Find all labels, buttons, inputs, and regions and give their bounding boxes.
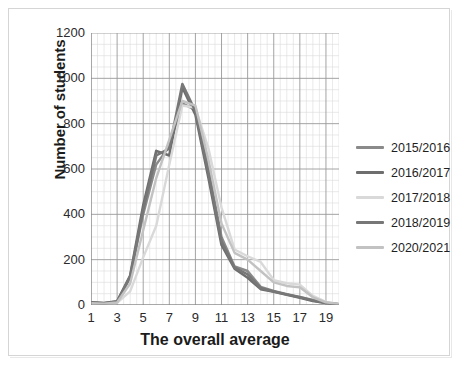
x-tick-13: 13 — [235, 311, 261, 324]
y-tick-800: 800 — [41, 117, 85, 130]
x-tick-19: 19 — [313, 311, 339, 324]
legend-label: 2015/2016 — [391, 141, 450, 155]
x-tick-1: 1 — [78, 311, 104, 324]
x-tick-11: 11 — [209, 311, 235, 324]
legend-item-2018-2019[interactable]: 2018/2019 — [356, 210, 456, 235]
plot-area — [91, 33, 339, 305]
chart-legend: 2015/20162016/20172017/20182018/20192020… — [356, 135, 456, 260]
y-tick-400: 400 — [41, 207, 85, 220]
y-tick-600: 600 — [41, 162, 85, 175]
x-tick-9: 9 — [182, 311, 208, 324]
legend-item-2015-2016[interactable]: 2015/2016 — [356, 135, 456, 160]
legend-label: 2017/2018 — [391, 191, 450, 205]
y-tick-200: 200 — [41, 253, 85, 266]
legend-label: 2020/2021 — [391, 241, 450, 255]
y-axis-tick-labels: 020040060080010001200 — [39, 33, 85, 305]
y-tick-1200: 1200 — [41, 26, 85, 39]
legend-swatch-icon — [356, 221, 384, 224]
legend-label: 2018/2019 — [391, 216, 450, 230]
legend-swatch-icon — [356, 146, 384, 149]
legend-swatch-icon — [356, 171, 384, 174]
legend-item-2020-2021[interactable]: 2020/2021 — [356, 235, 456, 260]
figure-canvas: Number of students 020040060080010001200… — [0, 0, 464, 374]
x-tick-15: 15 — [261, 311, 287, 324]
legend-swatch-icon — [356, 196, 384, 199]
legend-item-2016-2017[interactable]: 2016/2017 — [356, 160, 456, 185]
y-tick-1000: 1000 — [41, 71, 85, 84]
x-tick-17: 17 — [287, 311, 313, 324]
x-tick-5: 5 — [130, 311, 156, 324]
chart-frame: Number of students 020040060080010001200… — [8, 8, 450, 356]
x-tick-3: 3 — [104, 311, 130, 324]
x-axis-tick-labels: 135791113151719 — [91, 311, 339, 331]
x-axis-title: The overall average — [65, 331, 365, 349]
legend-item-2017-2018[interactable]: 2017/2018 — [356, 185, 456, 210]
y-tick-0: 0 — [41, 298, 85, 311]
legend-label: 2016/2017 — [391, 166, 450, 180]
x-tick-7: 7 — [156, 311, 182, 324]
plot-svg — [91, 33, 339, 305]
legend-swatch-icon — [356, 246, 384, 249]
